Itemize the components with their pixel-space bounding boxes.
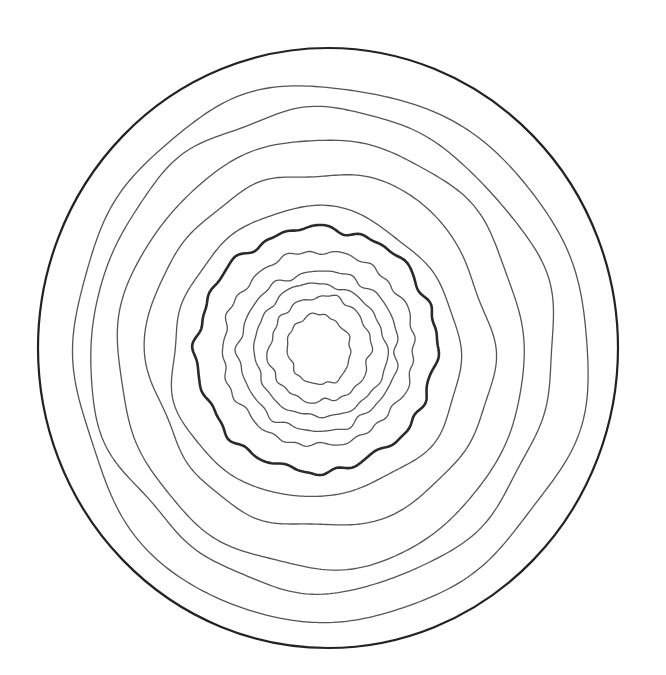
tree-ring-figure — [0, 0, 666, 675]
background — [0, 0, 666, 675]
tree-ring-drawing — [0, 0, 666, 675]
